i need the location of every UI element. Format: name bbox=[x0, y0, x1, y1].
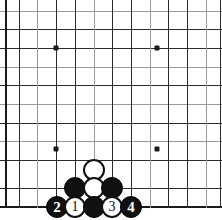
star-point-marker bbox=[54, 147, 59, 152]
grid-line-horizontal bbox=[0, 48, 222, 49]
grid-line-vertical bbox=[206, 0, 207, 208]
grid-line-vertical bbox=[19, 0, 20, 208]
move-number-label: 2 bbox=[53, 200, 61, 215]
grid-line-horizontal bbox=[0, 104, 222, 105]
star-point-marker bbox=[54, 46, 59, 51]
grid-line-horizontal bbox=[0, 123, 222, 124]
board-edge-left bbox=[5, 0, 7, 208]
star-point-marker bbox=[155, 147, 160, 152]
move-number-label: 4 bbox=[127, 200, 135, 215]
move-number-label: 1 bbox=[72, 200, 79, 214]
star-point-marker bbox=[155, 46, 160, 51]
grid-line-vertical bbox=[168, 0, 169, 208]
grid-line-vertical bbox=[37, 0, 38, 208]
grid-line-vertical bbox=[220, 0, 221, 208]
grid-line-horizontal bbox=[0, 141, 222, 142]
go-board-diagram: 2134 bbox=[0, 0, 222, 220]
grid-line-horizontal bbox=[0, 11, 222, 12]
grid-line-vertical bbox=[150, 0, 151, 208]
grid-line-horizontal bbox=[0, 29, 222, 30]
grid-line-vertical bbox=[131, 0, 132, 208]
grid-line-horizontal bbox=[0, 67, 222, 68]
move-number-label: 3 bbox=[109, 200, 116, 214]
grid-line-horizontal bbox=[0, 160, 222, 161]
grid-line-vertical bbox=[56, 0, 57, 208]
stone-move-4[interactable]: 4 bbox=[120, 196, 142, 218]
grid-line-horizontal bbox=[0, 85, 222, 86]
grid-line-vertical bbox=[187, 0, 188, 208]
